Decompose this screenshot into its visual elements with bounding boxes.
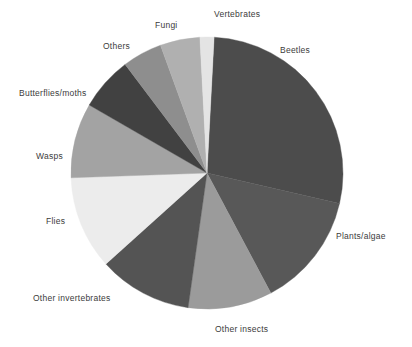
- pie-label-vertebrates: Vertebrates: [214, 10, 260, 19]
- pie-label-butterflies-moths: Butterflies/moths: [19, 89, 87, 98]
- pie-label-others: Others: [103, 42, 130, 51]
- pie-chart: Beetles Plants/algae Other insects Other…: [0, 0, 412, 347]
- pie-slice-group: [71, 37, 343, 309]
- pie-label-other-invertebrates: Other invertebrates: [33, 294, 111, 303]
- pie-label-fungi: Fungi: [155, 21, 178, 30]
- pie-label-flies: Flies: [46, 217, 65, 226]
- pie-label-beetles: Beetles: [280, 46, 310, 55]
- pie-label-plants-algae: Plants/algae: [336, 232, 386, 241]
- pie-label-wasps: Wasps: [36, 152, 63, 161]
- pie-label-other-insects: Other insects: [215, 325, 268, 334]
